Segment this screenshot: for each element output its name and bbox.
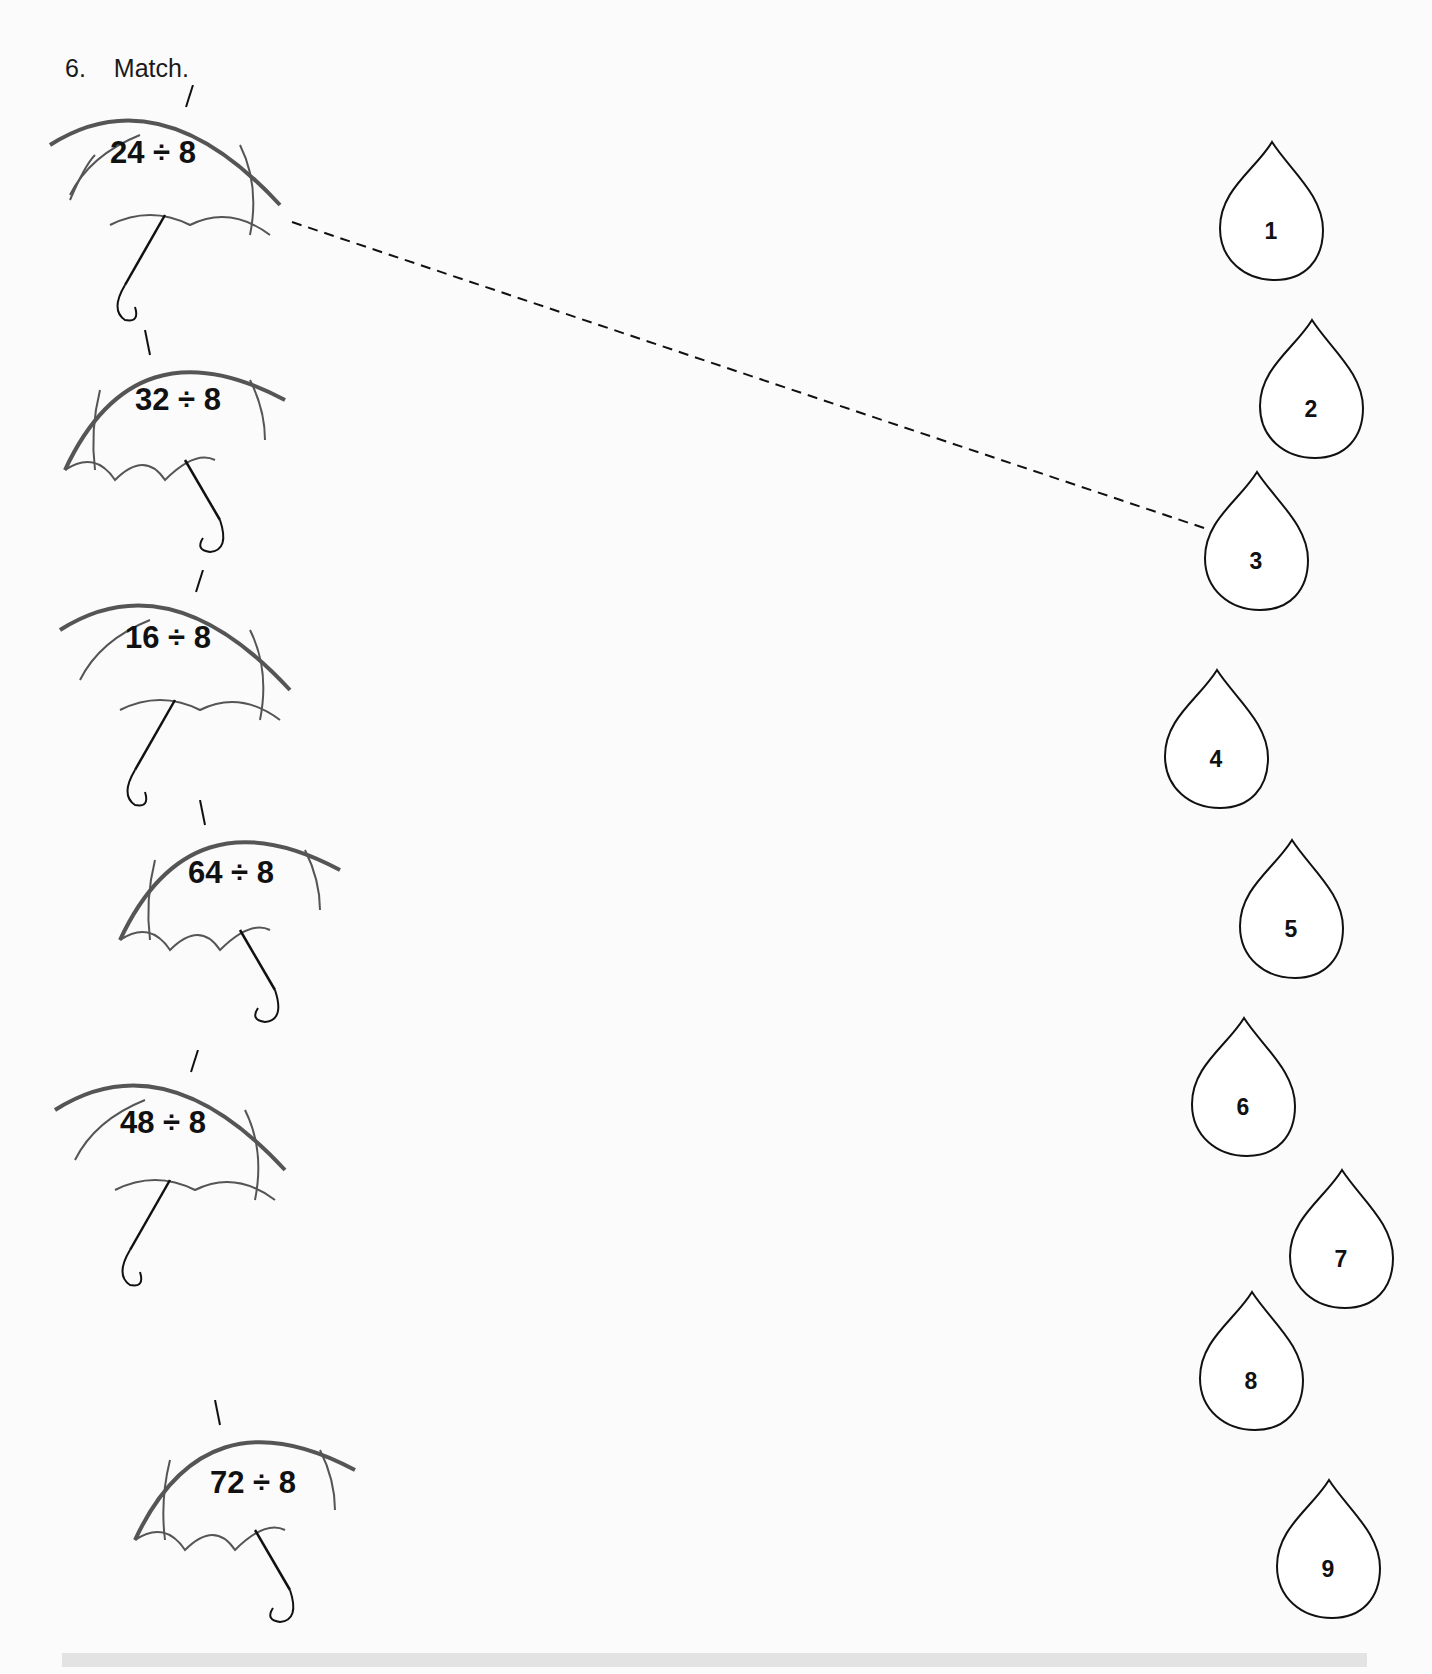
question-instruction: Match.	[114, 54, 189, 82]
drop-6[interactable]: 6	[1187, 1016, 1299, 1160]
question-number: 6.	[65, 54, 86, 82]
drop-3[interactable]: 3	[1200, 470, 1312, 614]
drop-value: 2	[1255, 396, 1367, 423]
umbrella-3[interactable]: 16 ÷ 8	[40, 570, 340, 830]
question-header: 6.Match.	[65, 54, 189, 83]
umbrella-1[interactable]: 24 ÷ 8	[30, 85, 330, 345]
umbrella-icon	[110, 800, 410, 1060]
drop-value: 7	[1285, 1246, 1397, 1273]
drop-value: 1	[1215, 218, 1327, 245]
raindrop-icon	[1272, 1478, 1384, 1622]
drop-value: 8	[1195, 1368, 1307, 1395]
raindrop-icon	[1215, 140, 1327, 284]
drop-9[interactable]: 9	[1272, 1478, 1384, 1622]
drop-1[interactable]: 1	[1215, 140, 1327, 284]
umbrella-icon	[30, 85, 330, 345]
drop-value: 5	[1235, 916, 1347, 943]
umbrella-icon	[125, 1400, 425, 1660]
umbrella-icon	[40, 570, 340, 830]
page-bottom-bar	[62, 1653, 1367, 1667]
drop-4[interactable]: 4	[1160, 668, 1272, 812]
umbrella-expression: 72 ÷ 8	[210, 1465, 296, 1501]
umbrella-5[interactable]: 48 ÷ 8	[35, 1050, 335, 1310]
raindrop-icon	[1160, 668, 1272, 812]
umbrella-icon	[55, 330, 355, 590]
drop-8[interactable]: 8	[1195, 1290, 1307, 1434]
umbrella-icon	[35, 1050, 335, 1310]
drop-value: 6	[1187, 1094, 1299, 1121]
umbrella-6[interactable]: 72 ÷ 8	[125, 1400, 425, 1660]
umbrella-expression: 64 ÷ 8	[188, 855, 274, 891]
umbrella-expression: 24 ÷ 8	[110, 135, 196, 171]
raindrop-icon	[1255, 318, 1367, 462]
raindrop-icon	[1195, 1290, 1307, 1434]
umbrella-expression: 48 ÷ 8	[120, 1105, 206, 1141]
drop-value: 3	[1200, 548, 1312, 575]
drop-2[interactable]: 2	[1255, 318, 1367, 462]
drop-value: 4	[1160, 746, 1272, 773]
raindrop-icon	[1235, 838, 1347, 982]
umbrella-expression: 16 ÷ 8	[125, 620, 211, 656]
umbrella-4[interactable]: 64 ÷ 8	[110, 800, 410, 1060]
drop-value: 9	[1272, 1556, 1384, 1583]
drop-5[interactable]: 5	[1235, 838, 1347, 982]
raindrop-icon	[1200, 470, 1312, 614]
umbrella-2[interactable]: 32 ÷ 8	[55, 330, 355, 590]
raindrop-icon	[1187, 1016, 1299, 1160]
umbrella-expression: 32 ÷ 8	[135, 382, 221, 418]
